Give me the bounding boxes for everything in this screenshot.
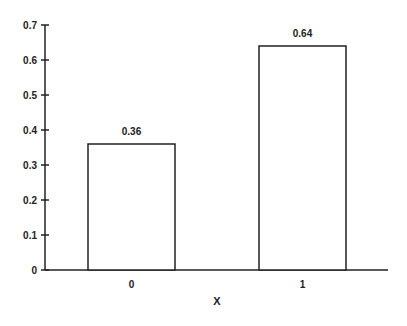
y-tick-label: 0.5 xyxy=(23,90,37,101)
bar-0 xyxy=(88,144,175,270)
bar-chart: 00.10.20.30.40.50.60.7 0.3600.641 X xyxy=(0,0,407,326)
y-tick-label: 0.6 xyxy=(23,55,37,66)
x-tick-label: 0 xyxy=(129,279,135,290)
y-tick-label: 0 xyxy=(31,265,37,276)
bar-value-label: 0.64 xyxy=(293,28,313,39)
y-tick-label: 0.1 xyxy=(23,230,37,241)
x-tick-label: 1 xyxy=(300,279,306,290)
y-tick-label: 0.3 xyxy=(23,160,37,171)
y-axis: 00.10.20.30.40.50.60.7 xyxy=(23,20,49,276)
y-tick-label: 0.7 xyxy=(23,20,37,31)
y-tick-label: 0.2 xyxy=(23,195,37,206)
bar-value-label: 0.36 xyxy=(122,126,142,137)
bar-1 xyxy=(259,46,346,270)
x-axis-title: X xyxy=(213,295,221,307)
bars: 0.3600.641 xyxy=(88,28,346,290)
y-tick-label: 0.4 xyxy=(23,125,37,136)
